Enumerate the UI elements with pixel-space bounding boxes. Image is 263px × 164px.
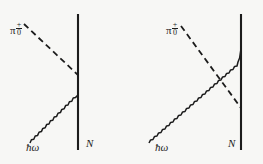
pion-label: π+0 [10, 22, 22, 36]
pion-dashed-line [181, 26, 241, 108]
pion-charge-stack: +0 [172, 22, 178, 36]
photon-label: ħω [26, 142, 39, 153]
direct-diagram: π+0 ħω N [0, 0, 131, 164]
nucleon-label: N [86, 138, 93, 149]
pion-glyph: π [10, 24, 16, 36]
pion-charge-subscript: 0 [172, 29, 178, 36]
crossed-diagram: π+0 ħω N [131, 0, 263, 164]
pion-label: π+0 [166, 22, 178, 36]
feynman-diagram-figure: π+0 ħω N π+0 ħω N [0, 0, 263, 164]
photon-label: ħω [155, 142, 168, 153]
crossed-diagram-canvas [131, 0, 263, 164]
photon-wavy-line [149, 46, 241, 143]
pion-charge-stack: +0 [16, 22, 22, 36]
pion-dashed-line [24, 24, 78, 75]
photon-wavy-line [30, 95, 78, 143]
pion-glyph: π [166, 24, 172, 36]
nucleon-label: N [228, 138, 235, 149]
pion-charge-subscript: 0 [16, 29, 22, 36]
